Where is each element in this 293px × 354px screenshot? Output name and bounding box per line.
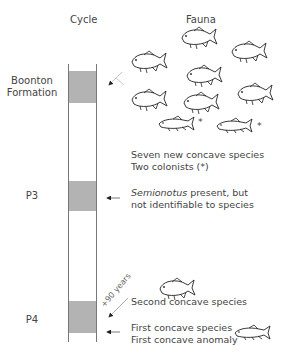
note-p3-line2: not identifiable to species	[131, 199, 254, 211]
colonist-marker-1: *	[198, 116, 203, 128]
note-boonton-line1: Seven new concave species	[131, 149, 264, 161]
note-p3: Semionotus present, but not identifiable…	[131, 187, 254, 211]
arrow-boonton	[109, 72, 124, 85]
note-p4-first-line1: First concave species	[131, 322, 238, 334]
note-p4-first-line2: First concave anomaly	[131, 334, 238, 346]
fauna-p4-first-fish	[235, 325, 270, 340]
colonist-marker-2: *	[257, 120, 262, 132]
note-p3-genus: Semionotus	[131, 187, 187, 198]
note-p4-second: Second concave species	[131, 296, 247, 308]
note-p3-line1: present, but	[187, 187, 248, 198]
note-boonton-line2: Two colonists (*)	[131, 161, 264, 173]
note-p4-first: First concave species First concave anom…	[131, 322, 238, 346]
note-boonton: Seven new concave species Two colonists …	[131, 149, 264, 173]
